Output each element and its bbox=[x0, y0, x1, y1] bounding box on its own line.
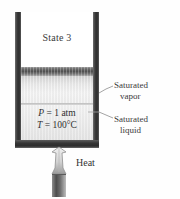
heat-label: Heat bbox=[76, 157, 95, 168]
diagram-vector-layer bbox=[0, 0, 180, 199]
saturated-liquid-line1: Saturated bbox=[114, 114, 148, 124]
saturated-liquid-line2: liquid bbox=[114, 125, 148, 136]
saturated-vapor-line1: Saturated bbox=[114, 80, 148, 90]
saturated-liquid-label: Saturated liquid bbox=[114, 114, 148, 136]
leader-line-liquid bbox=[99, 112, 113, 118]
saturated-vapor-line2: vapor bbox=[114, 91, 148, 102]
saturated-vapor-label: Saturated vapor bbox=[114, 80, 148, 102]
leader-line-vapor bbox=[99, 86, 113, 93]
burner-tube bbox=[52, 174, 66, 197]
diagram-canvas: State 3 P = 1 atm T = 100°C Heat Sat bbox=[0, 0, 180, 199]
